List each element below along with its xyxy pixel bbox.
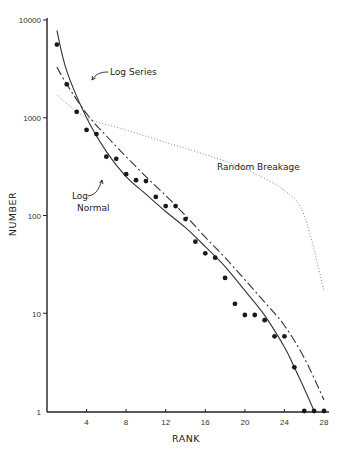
series-layer <box>57 31 324 412</box>
data-point <box>252 313 257 318</box>
data-point <box>233 301 238 306</box>
data-point <box>213 255 218 260</box>
x-tick-label: 8 <box>124 418 129 427</box>
x-tick-label: 16 <box>201 418 210 427</box>
data-point <box>183 217 188 222</box>
y-tick-label: 1000 <box>23 114 41 123</box>
annotations: Log Series Random Breakage Log Normal <box>72 67 300 213</box>
data-point <box>54 42 59 47</box>
log-series-curve <box>57 67 324 400</box>
y-axis-title: NUMBER <box>7 192 18 236</box>
data-point <box>223 275 228 280</box>
data-point <box>193 239 198 244</box>
data-points <box>54 42 326 413</box>
data-point <box>74 109 79 114</box>
data-point <box>104 154 109 159</box>
x-tick-label: 20 <box>240 418 249 427</box>
data-point <box>242 313 247 318</box>
x-tick-label: 12 <box>161 418 170 427</box>
data-point <box>203 251 208 256</box>
data-point <box>272 334 277 339</box>
data-point <box>302 409 307 414</box>
random-breakage-curve <box>57 95 324 291</box>
data-point <box>124 172 129 177</box>
data-point <box>163 204 168 209</box>
y-tick-label: 100 <box>28 212 42 221</box>
data-point <box>312 409 317 414</box>
y-tick-label: 1 <box>37 408 42 417</box>
data-point <box>153 194 158 199</box>
x-tick-label: 4 <box>84 418 89 427</box>
y-axis-ticks: 10000 1000 100 10 1 <box>19 16 47 417</box>
data-point <box>144 179 149 184</box>
data-point <box>84 128 89 133</box>
axes <box>47 18 329 412</box>
data-point <box>292 365 297 370</box>
log-normal-label-line2: Normal <box>77 203 110 213</box>
data-point <box>262 318 267 323</box>
y-tick-label: 10 <box>32 310 41 319</box>
log-series-label: Log Series <box>110 67 157 77</box>
y-tick-label: 10000 <box>19 16 42 25</box>
chart-figure: 10000 1000 100 10 1 4 8 12 16 20 24 28 R… <box>0 0 341 454</box>
data-point <box>322 409 327 414</box>
random-breakage-label: Random Breakage <box>217 162 300 172</box>
log-normal-label-line1: Log <box>72 191 88 201</box>
data-point <box>173 204 178 209</box>
data-point <box>114 156 119 161</box>
x-tick-label: 28 <box>320 418 329 427</box>
data-point <box>64 82 69 87</box>
data-point <box>282 334 287 339</box>
data-point <box>94 132 99 137</box>
data-point <box>134 178 139 183</box>
x-tick-label: 24 <box>280 418 289 427</box>
x-axis-title: RANK <box>172 433 200 444</box>
